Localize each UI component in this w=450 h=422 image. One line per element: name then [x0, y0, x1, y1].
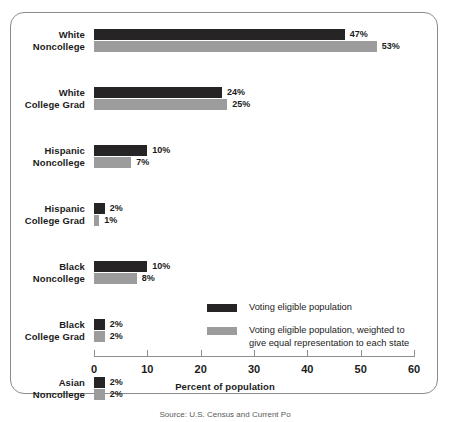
x-axis-tick	[361, 350, 362, 357]
bar-value-label: 10%	[152, 260, 170, 272]
chart-frame: White Noncollege 47% 53% White College G…	[10, 12, 438, 394]
bar-value-label: 2%	[110, 330, 123, 342]
bar-voting-eligible-weighted	[94, 99, 227, 110]
category-label: White Noncollege	[11, 29, 85, 53]
category-label: Hispanic Noncollege	[11, 145, 85, 169]
bar-voting-eligible	[94, 87, 222, 98]
category-label-line1: Black	[59, 261, 85, 272]
category-label-line2: College Grad	[11, 215, 85, 227]
category-label-line1: White	[59, 29, 85, 40]
x-axis-tick-label: 0	[74, 363, 114, 375]
x-axis-title: Percent of population	[11, 381, 439, 392]
x-axis-tick-label: 60	[394, 363, 434, 375]
x-axis-tick-label: 50	[341, 363, 381, 375]
x-axis-tick	[201, 350, 202, 357]
legend-swatch-icon	[207, 304, 237, 312]
x-axis-tick	[147, 350, 148, 357]
category-label: Black College Grad	[11, 319, 85, 343]
bar-value-label: 8%	[142, 272, 155, 284]
category-label: Black Noncollege	[11, 261, 85, 285]
bar-voting-eligible-weighted	[94, 157, 131, 168]
x-axis-tick	[307, 350, 308, 357]
x-axis-tick	[254, 350, 255, 357]
bar-voting-eligible-weighted	[94, 41, 377, 52]
x-axis-tick-label: 40	[287, 363, 327, 375]
bar-voting-eligible	[94, 203, 105, 214]
x-axis-tick-label: 10	[127, 363, 167, 375]
chart-category-group: White Noncollege 47% 53%	[11, 29, 439, 67]
legend-label: Voting eligible population	[249, 301, 437, 314]
legend-item: Voting eligible population	[207, 301, 437, 315]
bar-voting-eligible	[94, 261, 147, 272]
legend-item: Voting eligible population, weighted to …	[207, 324, 437, 349]
bar-value-label: 24%	[227, 86, 245, 98]
bar-voting-eligible	[94, 319, 105, 330]
chart-category-group: Black Noncollege 10% 8%	[11, 261, 439, 299]
bar-value-label: 25%	[232, 98, 250, 110]
x-axis-tick	[94, 350, 95, 357]
x-axis-tick-label: 30	[234, 363, 274, 375]
category-label-line2: Noncollege	[11, 273, 85, 285]
chart-category-group: Hispanic Noncollege 10% 7%	[11, 145, 439, 183]
legend-label-line2: give equal representation to each state	[249, 337, 437, 350]
bar-value-label: 1%	[104, 214, 117, 226]
bar-voting-eligible	[94, 29, 345, 40]
source-note: Source: U.S. Census and Current Po	[0, 410, 450, 419]
legend-swatch-icon	[207, 327, 237, 335]
category-label-line2: College Grad	[11, 99, 85, 111]
chart-plot-area: White Noncollege 47% 53% White College G…	[11, 13, 439, 395]
chart-legend: Voting eligible population Voting eligib…	[207, 301, 437, 358]
bar-voting-eligible-weighted	[94, 273, 137, 284]
bar-voting-eligible-weighted	[94, 331, 105, 342]
x-axis-tick-label: 20	[181, 363, 221, 375]
category-label-line2: Noncollege	[11, 157, 85, 169]
category-label-line1: Hispanic	[45, 203, 85, 214]
bar-value-label: 2%	[110, 318, 123, 330]
category-label: Hispanic College Grad	[11, 203, 85, 227]
bar-value-label: 2%	[110, 202, 123, 214]
x-axis-tick	[414, 350, 415, 357]
bar-value-label: 53%	[382, 40, 400, 52]
category-label-line1: Black	[59, 319, 85, 330]
category-label-line1: Hispanic	[45, 145, 85, 156]
category-label-line2: College Grad	[11, 331, 85, 343]
chart-category-group: Hispanic College Grad 2% 1%	[11, 203, 439, 241]
category-label: White College Grad	[11, 87, 85, 111]
bar-voting-eligible-weighted	[94, 215, 99, 226]
legend-label: Voting eligible population, weighted to	[249, 324, 437, 337]
bar-value-label: 47%	[350, 28, 368, 40]
category-label-line1: White	[59, 87, 85, 98]
bar-voting-eligible	[94, 145, 147, 156]
bar-value-label: 7%	[136, 156, 149, 168]
bar-value-label: 10%	[152, 144, 170, 156]
chart-category-group: White College Grad 24% 25%	[11, 87, 439, 125]
category-label-line2: Noncollege	[11, 41, 85, 53]
